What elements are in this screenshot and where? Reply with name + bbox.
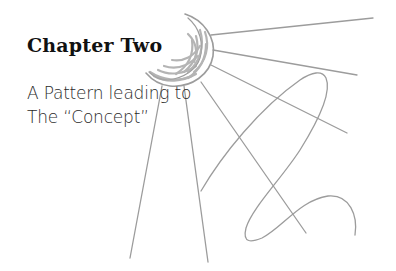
- ray-5: [184, 86, 208, 262]
- chapter-title: Chapter Two: [27, 34, 162, 56]
- chapter-subtitle-line-1: A Pattern leading to: [27, 83, 191, 103]
- chapter-subtitle-line-2: The “Concept”: [27, 107, 149, 127]
- sun-rays: [130, 18, 373, 262]
- ray-2: [213, 50, 357, 75]
- ray-1: [211, 18, 373, 35]
- ray-3: [211, 65, 347, 133]
